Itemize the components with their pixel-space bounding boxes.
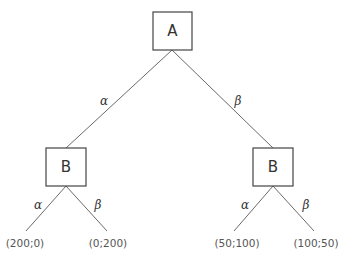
payoff-right-alpha: (50;100) — [214, 237, 259, 249]
edge-label-right-alpha: α — [241, 198, 249, 212]
edge-right-alpha — [234, 186, 273, 231]
node-label-left: B — [61, 158, 71, 176]
node-right: B — [253, 148, 293, 186]
edge-left-alpha — [26, 186, 66, 231]
payoff-left-beta: (0;200) — [89, 237, 127, 249]
payoff-left-alpha: (200;0) — [6, 237, 44, 249]
node-left: B — [46, 148, 86, 186]
payoff-right-beta: (100;50) — [293, 237, 338, 249]
edge-root-alpha — [66, 50, 172, 148]
edge-label-left-alpha: α — [34, 198, 42, 212]
game-tree-diagram: A B B α β α β α β (200;0) (0;200) (50;10… — [0, 0, 341, 255]
edge-root-beta — [172, 50, 273, 148]
edge-label-left-beta: β — [94, 198, 102, 212]
edge-label-root-alpha: α — [100, 94, 108, 108]
edge-label-root-beta: β — [234, 94, 242, 108]
edge-label-right-beta: β — [302, 198, 310, 212]
node-root: A — [153, 12, 192, 50]
node-label-right: B — [268, 158, 278, 176]
node-label-root: A — [167, 22, 178, 40]
